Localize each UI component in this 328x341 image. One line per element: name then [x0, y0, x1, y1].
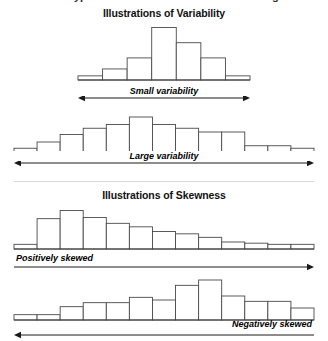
- histogram-bar: [152, 300, 175, 320]
- histogram-bar: [201, 58, 226, 80]
- histogram-bar: [268, 301, 291, 320]
- histogram-bar: [245, 243, 268, 249]
- axis-label-large-variability: Large variability: [0, 151, 328, 161]
- axis-label-negatively-skewed: Negatively skewed: [232, 319, 312, 329]
- section-title-skewness: Illustrations of Skewness: [0, 189, 328, 201]
- histogram-bar: [176, 43, 201, 80]
- histogram-bar: [14, 244, 37, 249]
- histogram-bar: [291, 244, 314, 249]
- chart-large-variability: [14, 112, 314, 153]
- cropped-text-above: ypes g: [0, 0, 328, 5]
- histogram-bar: [129, 297, 152, 320]
- cropped-text-left: ypes: [74, 0, 99, 2]
- histogram-bar: [83, 218, 106, 250]
- histogram-bar: [176, 285, 199, 320]
- histogram-bar: [222, 296, 245, 320]
- chart-small-variability: [78, 22, 250, 81]
- section-divider: [14, 181, 314, 182]
- histogram-bar: [199, 237, 222, 249]
- section-title-variability: Illustrations of Variability: [0, 7, 328, 19]
- axis-label-small-variability: Small variability: [0, 86, 328, 96]
- histogram-bar: [222, 132, 245, 152]
- histogram-positively-skewed: [14, 207, 314, 250]
- histogram-bar: [106, 303, 129, 320]
- chart-positively-skewed: [14, 207, 314, 250]
- arrow-head-right: [307, 264, 314, 270]
- histogram-bar: [225, 76, 250, 80]
- histogram-bar: [152, 28, 177, 80]
- histogram-bar: [60, 307, 83, 320]
- axis-arrow-positively-skewed: [14, 262, 314, 273]
- histogram-bar: [60, 211, 83, 250]
- histogram-bar: [129, 227, 152, 249]
- histogram-bar: [78, 76, 103, 80]
- histogram-bar: [199, 132, 222, 152]
- histogram-bar: [222, 242, 245, 249]
- histogram-bar: [199, 280, 222, 320]
- histogram-bar: [106, 125, 129, 153]
- histogram-bar: [37, 315, 60, 320]
- axis-arrow-wrap-negatively-skewed: [14, 330, 314, 341]
- histogram-bar: [37, 219, 60, 249]
- histogram-bar: [129, 117, 152, 152]
- histogram-bar: [152, 125, 175, 153]
- histogram-bar: [268, 244, 291, 249]
- histogram-bar: [14, 315, 37, 320]
- axis-arrow-negatively-skewed: [14, 330, 314, 341]
- cropped-text-right: g: [272, 0, 279, 2]
- histogram-bar: [245, 301, 268, 320]
- histogram-bar: [176, 234, 199, 249]
- figure-root: ypes g Illustrations of Variability Smal…: [0, 0, 328, 341]
- histogram-bar: [176, 128, 199, 152]
- histogram-small-variability: [78, 22, 250, 81]
- arrow-head-left: [14, 332, 21, 338]
- histogram-bar: [127, 58, 152, 80]
- chart-negatively-skewed: [14, 276, 314, 321]
- histogram-bar: [83, 303, 106, 320]
- histogram-bar: [60, 135, 83, 153]
- histogram-bar: [83, 128, 106, 152]
- histogram-large-variability: [14, 112, 314, 153]
- histogram-bar: [103, 69, 128, 80]
- axis-arrow-wrap-positively-skewed: [14, 262, 314, 273]
- histogram-bar: [106, 223, 129, 249]
- histogram-bar: [152, 232, 175, 250]
- histogram-negatively-skewed: [14, 276, 314, 321]
